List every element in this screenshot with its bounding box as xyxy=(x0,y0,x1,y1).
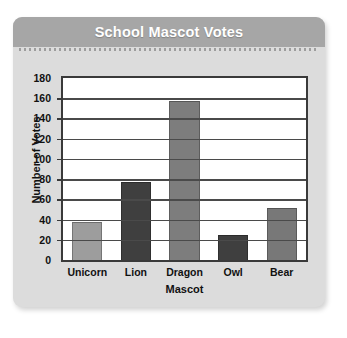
y-tick-mark xyxy=(57,139,62,141)
y-tick-mark xyxy=(57,159,62,161)
y-tick-mark xyxy=(57,220,62,222)
y-tick-label: 160 xyxy=(17,92,51,104)
y-tick-label: 100 xyxy=(17,153,51,165)
y-tick-mark xyxy=(57,179,62,181)
plot-area xyxy=(61,76,308,262)
y-tick-mark xyxy=(57,98,62,100)
y-tick-mark xyxy=(57,240,62,242)
bar-owl xyxy=(218,235,248,260)
chart-figure: School Mascot Votes Number of Votes 0204… xyxy=(0,0,347,338)
gridline xyxy=(63,199,306,201)
bar-lion xyxy=(121,182,151,260)
bar-bear xyxy=(267,208,297,260)
gridline xyxy=(63,179,306,181)
y-tick-label: 40 xyxy=(17,214,51,226)
x-tick-label-dragon: Dragon xyxy=(166,266,203,278)
x-tick-label-unicorn: Unicorn xyxy=(67,266,107,278)
y-tick-label: 180 xyxy=(17,72,51,84)
x-tick-label-owl: Owl xyxy=(223,266,242,278)
gridline xyxy=(63,240,306,242)
chart-title: School Mascot Votes xyxy=(95,24,244,40)
gridline xyxy=(63,220,306,222)
y-tick-label: 80 xyxy=(17,173,51,185)
gridline xyxy=(63,139,306,141)
y-tick-mark xyxy=(57,199,62,201)
x-axis-title: Mascot xyxy=(61,283,308,295)
y-tick-mark xyxy=(57,118,62,120)
chart-panel: School Mascot Votes Number of Votes 0204… xyxy=(13,17,325,307)
y-tick-label: 140 xyxy=(17,112,51,124)
bar-dragon xyxy=(169,101,199,260)
gridline xyxy=(63,159,306,161)
y-tick-label: 20 xyxy=(17,234,51,246)
y-tick-label: 60 xyxy=(17,193,51,205)
x-tick-label-bear: Bear xyxy=(270,266,293,278)
gridline xyxy=(63,98,306,100)
x-tick-label-lion: Lion xyxy=(125,266,147,278)
gridline xyxy=(63,118,306,120)
bars-layer xyxy=(63,78,306,260)
y-tick-label: 0 xyxy=(17,254,51,266)
chart-body: Number of Votes 020406080100120140160180… xyxy=(13,50,325,307)
y-tick-label: 120 xyxy=(17,133,51,145)
chart-title-bar: School Mascot Votes xyxy=(13,17,325,47)
